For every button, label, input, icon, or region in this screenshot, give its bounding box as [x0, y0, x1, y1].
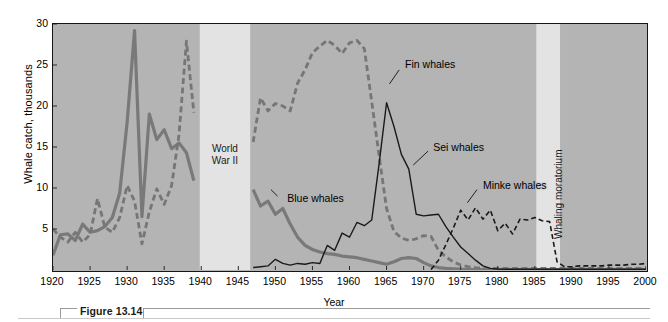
series-label-fin-whales: Fin whales [405, 58, 455, 70]
x-tick-1985: 1985 [514, 275, 554, 287]
x-tick-1925: 1925 [69, 275, 109, 287]
x-tick-1950: 1950 [254, 275, 294, 287]
x-tick-1945: 1945 [217, 275, 257, 287]
caption-label: Figure 13.14 [80, 305, 142, 317]
x-tick-1995: 1995 [588, 275, 628, 287]
band-label-world-war-ii: WorldWar II [197, 143, 253, 166]
x-tick-1920: 1920 [32, 275, 72, 287]
leader-line-blue-whales [271, 190, 278, 197]
x-tick-1960: 1960 [329, 275, 369, 287]
series-label-sei-whales: Sei whales [433, 141, 484, 153]
series-line-sei-whales [253, 103, 646, 269]
x-tick-2000: 2000 [625, 275, 665, 287]
x-tick-1980: 1980 [477, 275, 517, 287]
series-label-minke-whales: Minke whales [483, 179, 547, 191]
whale-catch-figure: Whale catch, thousands 51015202530 19201… [0, 0, 668, 322]
band-label-whaling-moratorium: Whaling moratorium [553, 150, 565, 239]
x-tick-1965: 1965 [366, 275, 406, 287]
caption-rule-left [60, 308, 77, 318]
x-tick-1955: 1955 [291, 275, 331, 287]
x-tick-1975: 1975 [440, 275, 480, 287]
x-tick-1930: 1930 [106, 275, 146, 287]
leader-line-minke-whales [467, 190, 477, 203]
x-tick-1940: 1940 [180, 275, 220, 287]
x-tick-1990: 1990 [551, 275, 591, 287]
caption-underline [18, 318, 650, 319]
series-label-blue-whales: Blue whales [287, 192, 344, 204]
leader-line-fin-whales [390, 70, 400, 84]
caption-rule-right [143, 308, 650, 318]
x-tick-1970: 1970 [403, 275, 443, 287]
x-tick-1935: 1935 [143, 275, 183, 287]
plot-area: WorldWar IIWhaling moratoriumBlue whales… [52, 23, 648, 272]
leader-line-sei-whales [413, 151, 428, 165]
